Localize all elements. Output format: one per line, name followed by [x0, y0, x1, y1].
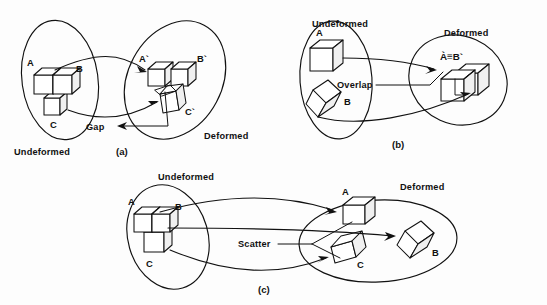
panel-b-deformed-label: Deformed	[444, 28, 488, 38]
panel-a-label-B-prime: B`	[197, 53, 207, 64]
panel-c-caption: (c)	[258, 284, 270, 295]
panel-b-cube-B	[306, 80, 341, 117]
panel-a: A B C A` B` C`	[14, 3, 248, 157]
panel-c: A B C A B C	[115, 172, 459, 299]
panel-c-deformed-cube-A	[343, 197, 375, 224]
panel-c-label-C: C	[146, 258, 153, 269]
panel-a-undeformed-cube-cluster	[34, 68, 80, 115]
panel-c-deformed-label-B: B	[432, 247, 439, 258]
panel-b: A B À≡B`	[296, 19, 522, 150]
panel-a-mapping-arrow-lower	[68, 101, 159, 117]
deformation-diagram: A B C A` B` C`	[0, 0, 547, 305]
panel-c-deformed-label: Deformed	[400, 182, 444, 192]
panel-a-label-C: C	[50, 119, 57, 130]
panel-c-mapping-arrow-A	[160, 198, 337, 215]
panel-c-scatter-label: Scatter	[238, 239, 271, 249]
figure-container: A B C A` B` C`	[0, 0, 547, 305]
panel-b-label-B: B	[344, 96, 351, 107]
panel-a-label-A: A	[27, 57, 34, 68]
panel-b-overlap-annotation: Overlap	[337, 72, 443, 90]
panel-c-deformed-label-C: C	[357, 259, 364, 270]
panel-a-label-C-prime: C`	[185, 106, 195, 117]
panel-a-deformed-label: Deformed	[204, 131, 248, 141]
panel-c-deformed-ellipse	[297, 196, 459, 286]
panel-b-cube-A	[310, 40, 343, 71]
panel-b-caption: (b)	[392, 139, 404, 150]
panel-b-label-A-equiv-B-prime: À≡B`	[440, 51, 463, 62]
panel-c-undeformed-cube-cluster	[134, 207, 178, 252]
panel-c-deformed-label-A: A	[342, 186, 349, 197]
panel-a-label-B: B	[76, 63, 83, 74]
panel-b-undeformed-label: Undeformed	[312, 19, 368, 29]
panel-a-label-A-prime: A`	[139, 53, 149, 64]
panel-c-label-A: A	[128, 196, 135, 207]
panel-c-undeformed-label: Undeformed	[158, 172, 214, 182]
panel-a-gap-label: Gap	[86, 122, 105, 132]
panel-a-undeformed-label: Undeformed	[14, 147, 70, 157]
panel-a-caption: (a)	[116, 146, 128, 157]
panel-c-deformed-cube-B	[397, 221, 434, 258]
panel-b-mapping-arrow-A	[343, 58, 437, 74]
panel-b-overlap-label: Overlap	[337, 80, 373, 90]
